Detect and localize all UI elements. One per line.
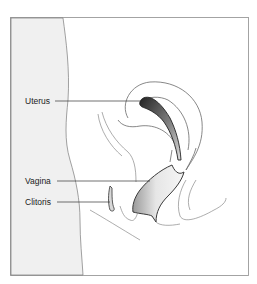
clitoris-label: Clitoris <box>25 197 51 207</box>
vagina-label: Vagina <box>25 176 51 186</box>
uterus-label: Uterus <box>25 96 50 106</box>
anatomy-diagram: Uterus Vagina Clitoris <box>0 0 257 284</box>
